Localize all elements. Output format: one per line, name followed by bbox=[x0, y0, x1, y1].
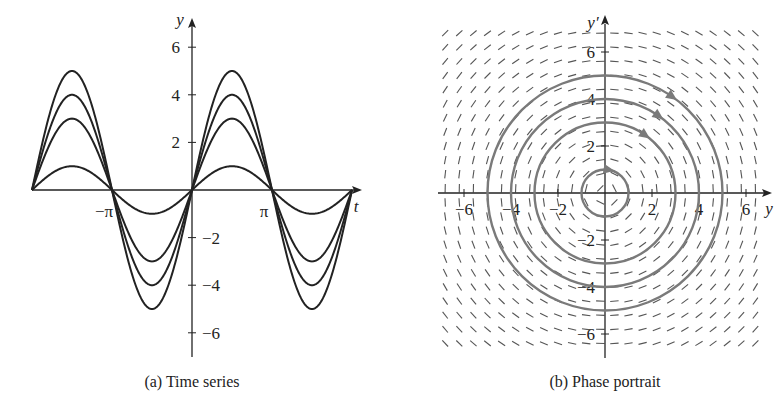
field-segment bbox=[540, 299, 547, 303]
y-axis-label: y bbox=[763, 199, 773, 218]
field-segment bbox=[667, 342, 675, 345]
field-segment bbox=[754, 128, 757, 136]
field-segment bbox=[485, 269, 490, 276]
field-segment bbox=[610, 159, 618, 161]
field-segment bbox=[624, 47, 632, 48]
field-segment bbox=[710, 31, 717, 36]
field-segment bbox=[486, 241, 489, 249]
field-segment bbox=[486, 227, 489, 235]
field-segment bbox=[710, 59, 716, 64]
field-segment bbox=[710, 45, 717, 50]
field-segment bbox=[554, 32, 562, 34]
field-segment bbox=[582, 33, 590, 34]
field-segment bbox=[740, 142, 743, 150]
field-segment bbox=[484, 59, 490, 65]
field-segment bbox=[683, 227, 687, 235]
field-segment bbox=[443, 86, 448, 93]
field-segment bbox=[527, 115, 533, 121]
field-segment bbox=[725, 284, 730, 291]
field-segment bbox=[554, 88, 562, 91]
field-segment bbox=[755, 198, 756, 206]
field-segment bbox=[540, 46, 548, 49]
field-segment bbox=[568, 271, 576, 274]
field-segment bbox=[541, 256, 547, 262]
field-segment bbox=[697, 241, 701, 248]
field-segment bbox=[752, 340, 758, 346]
field-segment bbox=[457, 58, 463, 64]
field-segment bbox=[473, 170, 474, 178]
y-tick-label: −4 bbox=[202, 276, 221, 295]
field-segment bbox=[639, 88, 647, 91]
field-segment bbox=[681, 59, 688, 63]
field-segment bbox=[726, 241, 729, 249]
field-segment bbox=[527, 270, 533, 276]
field-segment bbox=[642, 198, 644, 206]
field-segment bbox=[624, 314, 632, 316]
field-segment bbox=[568, 74, 576, 76]
field-segment bbox=[653, 342, 661, 345]
field-segment bbox=[639, 314, 647, 316]
field-segment bbox=[696, 270, 701, 276]
field-segment bbox=[444, 227, 446, 235]
field-segment bbox=[712, 170, 713, 178]
field-segment bbox=[725, 100, 730, 107]
field-segment bbox=[568, 286, 576, 289]
field-segment bbox=[486, 142, 489, 150]
field-segment bbox=[472, 128, 476, 136]
field-segment bbox=[585, 184, 587, 192]
field-segment bbox=[724, 45, 730, 50]
field-segment bbox=[555, 256, 562, 261]
field-segment bbox=[515, 170, 517, 178]
field-segment bbox=[568, 32, 576, 34]
field-segment bbox=[485, 312, 491, 318]
field-segment bbox=[526, 45, 533, 49]
field-segment bbox=[624, 61, 632, 62]
field-segment bbox=[683, 156, 686, 164]
field-segment bbox=[725, 86, 730, 92]
field-segment bbox=[485, 86, 491, 92]
field-segment bbox=[639, 342, 647, 344]
field-segment bbox=[656, 184, 657, 192]
field-segment bbox=[711, 128, 715, 135]
field-segment bbox=[527, 256, 533, 262]
field-segment bbox=[671, 184, 672, 192]
field-segment bbox=[554, 74, 562, 77]
field-segment bbox=[624, 343, 632, 344]
field-segment bbox=[583, 214, 590, 219]
field-segment bbox=[610, 117, 618, 118]
field-segment bbox=[472, 156, 474, 164]
field-segment bbox=[526, 73, 533, 78]
field-segment bbox=[684, 170, 686, 178]
field-segment bbox=[682, 129, 687, 136]
field-segment bbox=[624, 300, 632, 302]
field-segment bbox=[625, 117, 633, 120]
field-segment bbox=[528, 227, 532, 235]
field-segment bbox=[596, 244, 604, 245]
field-segment bbox=[596, 259, 604, 260]
field-segment bbox=[667, 60, 675, 64]
field-segment bbox=[458, 128, 461, 136]
field-segment bbox=[554, 46, 562, 49]
field-segment bbox=[710, 327, 717, 332]
field-segment bbox=[485, 73, 491, 79]
field-segment bbox=[472, 255, 476, 263]
field-segment bbox=[554, 60, 562, 63]
field-segment bbox=[654, 227, 659, 234]
x-tick-label: 6 bbox=[742, 200, 751, 219]
field-segment bbox=[540, 60, 548, 64]
y-tick-label: −2 bbox=[202, 229, 220, 248]
field-segment bbox=[526, 327, 533, 331]
field-segment bbox=[653, 46, 661, 49]
field-segment bbox=[667, 73, 674, 77]
field-segment bbox=[681, 313, 688, 318]
field-segment bbox=[641, 170, 645, 178]
field-segment bbox=[725, 128, 729, 136]
field-segment bbox=[684, 213, 686, 221]
field-segment bbox=[753, 283, 757, 290]
field-segment bbox=[696, 298, 702, 304]
y-tick-label: −4 bbox=[577, 278, 596, 297]
field-segment bbox=[543, 170, 545, 178]
field-segment bbox=[639, 74, 647, 77]
field-segment bbox=[740, 128, 743, 136]
field-segment bbox=[681, 31, 689, 35]
